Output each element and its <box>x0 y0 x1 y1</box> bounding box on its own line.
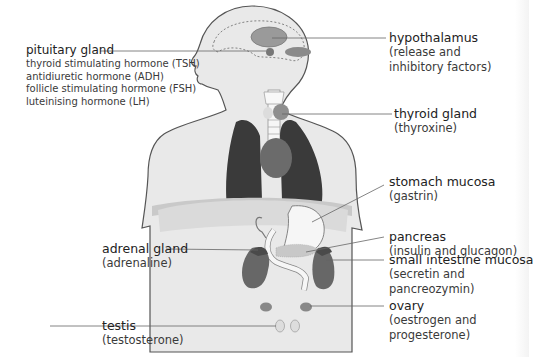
testis-line1: (testosterone) <box>102 333 184 348</box>
thyroid-line1: (thyroxine) <box>394 121 477 136</box>
label-testis: testis (testosterone) <box>102 318 184 348</box>
ovary-line1: (oestrogen and <box>389 313 477 328</box>
ovary-line2: progesterone) <box>389 328 477 343</box>
label-stomach: stomach mucosa (gastrin) <box>389 174 495 204</box>
adrenal-line1: (adrenaline) <box>102 256 188 271</box>
right-ovary <box>300 303 312 312</box>
label-ovary: ovary (oestrogen and progesterone) <box>389 298 477 343</box>
hypothalamus-title: hypothalamus <box>389 30 491 45</box>
small-intestine-line1: (secretin and <box>389 267 534 282</box>
thyroid-title: thyroid gland <box>394 106 477 121</box>
label-small-intestine: small intestine mucosa (secretin and pan… <box>389 252 534 297</box>
left-ovary <box>260 303 272 312</box>
pituitary-title: pituitary gland <box>26 43 200 58</box>
pituitary-hormone-lh: luteinising hormone (LH) <box>26 96 200 109</box>
thyroid-shape <box>273 104 289 120</box>
heart-shape <box>260 138 292 178</box>
pancreas-title: pancreas <box>389 229 517 244</box>
pituitary-hormone-fsh: follicle stimulating hormone (FSH) <box>26 83 200 96</box>
label-adrenal: adrenal gland (adrenaline) <box>102 241 188 271</box>
larynx-shape <box>264 92 284 104</box>
pituitary-hormone-tsh: thyroid stimulating hormone (TSH) <box>26 58 200 71</box>
stomach-line1: (gastrin) <box>389 189 495 204</box>
hypothalamus-shape <box>251 27 287 47</box>
right-testis <box>291 320 300 332</box>
pituitary-shape <box>266 48 274 56</box>
cerebellum-shape <box>285 47 311 57</box>
ovary-title: ovary <box>389 298 477 313</box>
adrenal-title: adrenal gland <box>102 241 188 256</box>
left-testis <box>276 320 285 332</box>
testis-title: testis <box>102 318 184 333</box>
thyroid-shape-left <box>263 107 273 119</box>
hypothalamus-line1: (release and <box>389 45 491 60</box>
label-hypothalamus: hypothalamus (release and inhibitory fac… <box>389 30 491 75</box>
hypothalamus-line2: inhibitory factors) <box>389 60 491 75</box>
small-intestine-line2: pancreozymin) <box>389 282 534 297</box>
small-intestine-title: small intestine mucosa <box>389 252 534 267</box>
label-pituitary: pituitary gland thyroid stimulating horm… <box>26 43 200 108</box>
pituitary-hormone-adh: antidiuretic hormone (ADH) <box>26 71 200 84</box>
stomach-title: stomach mucosa <box>389 174 495 189</box>
label-thyroid: thyroid gland (thyroxine) <box>394 106 477 136</box>
